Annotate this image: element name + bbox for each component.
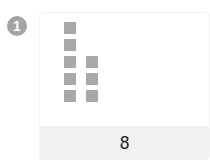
unit-block (86, 90, 98, 102)
unit-block (64, 22, 76, 34)
unit-block (64, 73, 76, 85)
counting-card[interactable]: 8 (39, 12, 210, 160)
answer-value: 8 (119, 133, 129, 153)
unit-block (64, 90, 76, 102)
unit-block (64, 39, 76, 51)
unit-block (64, 56, 76, 68)
item-number-badge: 1 (7, 16, 27, 36)
item-number: 1 (13, 19, 21, 33)
answer-footer: 8 (40, 126, 209, 159)
blocks-area (40, 13, 209, 125)
unit-block (86, 56, 98, 68)
unit-block (86, 73, 98, 85)
